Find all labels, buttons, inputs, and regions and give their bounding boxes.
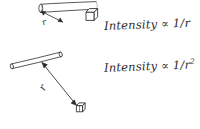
distance-arrow-bottom [42,63,76,106]
cube-detector-bottom [76,103,85,112]
formula-exponent: 2 [190,57,195,66]
handwritten-physics-diagram: r r Intensity ∝ 1/r Intensity ∝ 1/r2 [0,0,200,129]
short-rod-light-source [10,52,63,69]
cube-detector-top [86,9,98,21]
